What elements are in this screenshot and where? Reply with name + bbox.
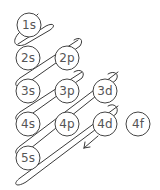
- orbital-label: 2p: [59, 51, 74, 65]
- orbital-2p: 2p: [55, 46, 79, 70]
- orbital-4f: 4f: [126, 112, 150, 136]
- arrow: [84, 136, 98, 148]
- orbital-label: 2s: [21, 51, 35, 65]
- orbital-4d: 4d: [93, 112, 117, 136]
- orbital-3p: 3p: [55, 79, 79, 103]
- orbital-1s: 1s: [17, 13, 41, 37]
- orbital-4p: 4p: [55, 112, 79, 136]
- orbital-label: 5s: [21, 151, 35, 165]
- orbital-label: 4f: [132, 117, 145, 131]
- orbital-5s: 5s: [16, 146, 40, 170]
- orbital-4s: 4s: [16, 112, 40, 136]
- orbital-label: 4d: [97, 117, 112, 131]
- orbital-label: 4s: [21, 117, 35, 131]
- orbital-label: 3d: [97, 84, 112, 98]
- aufbau-diagram: 1s2s2p3s3p3d4s4p4d4f5s: [0, 0, 160, 190]
- orbital-3s: 3s: [16, 79, 40, 103]
- orbital-label: 1s: [22, 18, 36, 32]
- orbital-2s: 2s: [16, 46, 40, 70]
- orbital-label: 3p: [59, 84, 74, 98]
- orbital-label: 3s: [21, 84, 35, 98]
- orbital-label: 4p: [59, 117, 74, 131]
- orbital-3d: 3d: [93, 79, 117, 103]
